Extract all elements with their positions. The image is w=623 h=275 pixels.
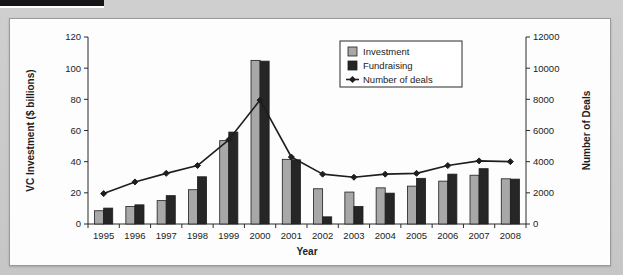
line-marker-2008 — [507, 159, 513, 165]
y-axis-tick-label: 40 — [70, 156, 81, 167]
line-marker-2005 — [414, 170, 420, 176]
chart-figure-frame: 0204060801001200200040006000800010000120… — [9, 18, 611, 266]
vc-investment-chart: 0204060801001200200040006000800010000120… — [10, 19, 612, 265]
bar-fundraising-2006 — [448, 174, 457, 224]
x-axis-tick-label: 1996 — [124, 230, 145, 241]
bar-investment-2006 — [439, 181, 448, 224]
x-axis-tick-label: 2000 — [250, 230, 271, 241]
bar-fundraising-1997 — [166, 196, 175, 224]
bar-investment-2005 — [407, 186, 416, 224]
bar-fundraising-2008 — [510, 179, 519, 224]
page-root: 0204060801001200200040006000800010000120… — [0, 0, 623, 275]
bar-fundraising-2001 — [291, 160, 300, 224]
y2-axis-tick-label: 10000 — [533, 63, 559, 74]
x-axis-tick-label: 2006 — [437, 230, 458, 241]
line-marker-2006 — [445, 163, 451, 169]
x-axis-tick-label: 1997 — [156, 230, 177, 241]
line-marker-2007 — [476, 158, 482, 164]
legend-swatch-investment — [348, 47, 357, 56]
bar-fundraising-1996 — [135, 205, 144, 224]
legend-label-fundraising: Fundraising — [363, 60, 413, 71]
y2-axis-tick-label: 8000 — [533, 94, 554, 105]
bar-investment-2003 — [345, 192, 354, 224]
bar-fundraising-1995 — [104, 208, 113, 224]
x-axis-tick-label: 1998 — [187, 230, 208, 241]
bar-investment-1997 — [157, 201, 166, 224]
line-marker-2003 — [351, 174, 357, 180]
bar-investment-1999 — [220, 141, 229, 224]
bar-investment-2002 — [314, 189, 323, 224]
bar-fundraising-1999 — [229, 132, 238, 224]
bar-fundraising-2002 — [323, 217, 332, 224]
x-axis-tick-label: 2002 — [312, 230, 333, 241]
line-marker-2004 — [382, 171, 388, 177]
y-axis-tick-label: 80 — [70, 94, 81, 105]
y-axis-tick-label: 100 — [65, 63, 81, 74]
bar-fundraising-2003 — [354, 206, 363, 224]
legend-label-number-of-deals: Number of deals — [363, 74, 433, 85]
x-axis-tick-label: 1995 — [93, 230, 114, 241]
x-axis-tick-label: 2005 — [406, 230, 427, 241]
y-axis-tick-label: 0 — [76, 218, 81, 229]
bar-investment-2000 — [251, 60, 260, 224]
y2-axis-tick-label: 6000 — [533, 125, 554, 136]
x-axis-tick-label: 2003 — [343, 230, 364, 241]
bar-fundraising-2005 — [417, 178, 426, 224]
x-axis-tick-label: 2008 — [500, 230, 521, 241]
line-marker-1995 — [101, 191, 107, 197]
bar-investment-1995 — [95, 211, 104, 224]
y-axis-title: VC Investment ($ billions) — [25, 69, 36, 191]
bar-investment-2008 — [501, 179, 510, 224]
y2-axis-tick-label: 4000 — [533, 156, 554, 167]
x-axis-tick-label: 2007 — [469, 230, 490, 241]
x-axis-title: Year — [296, 246, 317, 257]
y-axis-tick-label: 60 — [70, 125, 81, 136]
line-marker-1996 — [132, 179, 138, 185]
bar-fundraising-2000 — [260, 61, 269, 224]
x-axis-tick-label: 1999 — [218, 230, 239, 241]
bar-investment-1998 — [188, 190, 197, 224]
y2-axis-tick-label: 12000 — [533, 31, 559, 42]
y-axis-tick-label: 20 — [70, 187, 81, 198]
bar-fundraising-1998 — [198, 177, 207, 224]
line-marker-2002 — [320, 171, 326, 177]
cropped-header-strip — [0, 0, 104, 8]
bar-fundraising-2004 — [385, 193, 394, 224]
legend-swatch-fundraising — [348, 61, 357, 70]
bar-investment-1996 — [126, 207, 135, 224]
chart-plot-area: 0204060801001200200040006000800010000120… — [10, 19, 610, 265]
x-axis-tick-label: 2004 — [375, 230, 396, 241]
bar-fundraising-2007 — [479, 169, 488, 224]
legend-label-investment: Investment — [363, 46, 410, 57]
y2-axis-tick-label: 2000 — [533, 187, 554, 198]
y2-axis-tick-label: 0 — [533, 218, 538, 229]
y2-axis-title: Number of Deals — [581, 90, 592, 170]
bar-investment-2004 — [376, 188, 385, 224]
bar-investment-2001 — [282, 159, 291, 224]
x-axis-tick-label: 2001 — [281, 230, 302, 241]
y-axis-tick-label: 120 — [65, 31, 81, 42]
bar-investment-2007 — [470, 175, 479, 224]
line-marker-1997 — [163, 170, 169, 176]
